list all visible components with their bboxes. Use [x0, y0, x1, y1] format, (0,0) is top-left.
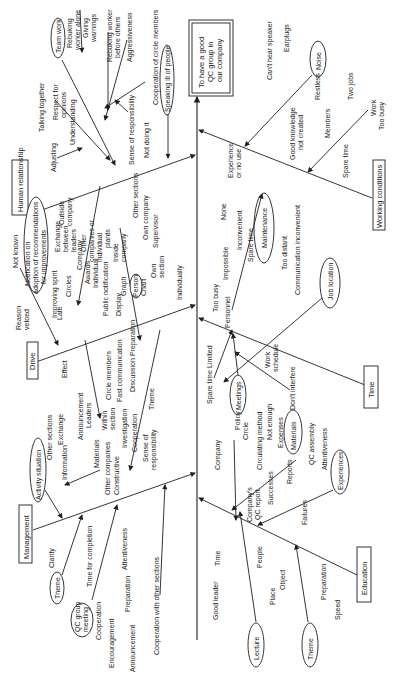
svg-text:Talking together: Talking together	[38, 82, 46, 132]
svg-text:QC group: QC group	[74, 602, 82, 632]
category-label: Education	[360, 562, 369, 595]
svg-text:Attentiveness: Attentiveness	[121, 527, 128, 570]
svg-text:company: company	[120, 233, 128, 262]
svg-text:Good leader: Good leader	[212, 581, 219, 620]
svg-text:Announcement: Announcement	[77, 393, 84, 440]
svg-text:Spare time: Spare time	[247, 228, 255, 262]
svg-text:Constructive: Constructive	[113, 456, 120, 495]
svg-text:Public notification: Public notification	[102, 261, 109, 316]
svg-text:Cooperation with other section: Cooperation with other sections	[153, 556, 161, 655]
svg-text:for improvements: for improvements	[40, 229, 48, 284]
svg-text:Members: Members	[324, 108, 331, 138]
svg-text:Good knowledge: Good knowledge	[289, 107, 297, 160]
svg-text:Notification on: Notification on	[24, 242, 31, 286]
svg-text:Circles: Circles	[65, 275, 72, 297]
svg-text:opinions: opinions	[60, 91, 68, 118]
svg-text:Circle: Circle	[242, 422, 249, 440]
svg-text:Place: Place	[269, 587, 276, 605]
svg-text:worker alone: worker alone	[74, 10, 81, 51]
svg-text:Within: Within	[101, 410, 108, 430]
svg-text:People: People	[256, 546, 264, 568]
svg-text:Object: Object	[279, 570, 287, 590]
svg-text:Inside: Inside	[112, 243, 119, 262]
team-work-label: Team work	[55, 19, 62, 53]
svg-text:Other companies: Other companies	[104, 441, 112, 495]
svg-text:Investigation: Investigation	[121, 409, 129, 448]
svg-text:Circulating method: Circulating method	[256, 412, 264, 470]
svg-text:Graph: Graph	[120, 276, 128, 296]
svg-text:Successes: Successes	[267, 471, 274, 505]
svg-text:Respect for: Respect for	[52, 84, 60, 120]
category-label: Human relationship	[16, 147, 25, 212]
svg-text:Experiences: Experiences	[337, 451, 345, 490]
svg-text:Not doing it: Not doing it	[143, 123, 151, 158]
effect-line-1: To have a good	[197, 37, 206, 88]
svg-text:Job location: Job location	[327, 263, 334, 300]
svg-text:None: None	[220, 203, 227, 220]
category-drive: Drive Not known Notification on adoption…	[12, 172, 195, 470]
svg-text:Other sections: Other sections	[46, 414, 53, 460]
fishbone-diagram: To have a good QC group in our company H…	[0, 0, 397, 677]
svg-text:Inconvenient: Inconvenient	[236, 210, 243, 250]
effect-box: To have a good QC group in our company	[189, 20, 233, 96]
svg-text:Company: Company	[214, 440, 222, 470]
svg-text:Theme: Theme	[307, 638, 314, 660]
svg-text:Leaders: Leaders	[85, 402, 92, 428]
svg-text:Spare time: Spare time	[342, 144, 350, 178]
svg-text:individual: individual	[96, 232, 103, 262]
svg-text:schedule: schedule	[272, 344, 279, 372]
svg-text:Limited: Limited	[206, 345, 213, 368]
svg-text:Other: Other	[80, 234, 87, 252]
svg-text:Too busy: Too busy	[378, 101, 386, 130]
category-education: Education Company Policy Circle Circulat…	[199, 404, 371, 667]
svg-text:Spare time: Spare time	[206, 370, 214, 404]
effect-line-3: our company	[215, 38, 224, 82]
svg-text:warnings: warnings	[90, 13, 98, 43]
category-human-relationship: Human relationship Team work Rebuking wo…	[12, 9, 195, 215]
svg-text:Own: Own	[150, 264, 157, 279]
svg-text:Effect: Effect	[61, 360, 68, 378]
svg-text:Company's: Company's	[246, 487, 254, 522]
svg-text:Exchange: Exchange	[57, 414, 65, 445]
svg-text:section: section	[158, 256, 165, 278]
svg-text:Own company: Own company	[142, 195, 150, 240]
svg-text:plants: plants	[104, 229, 112, 248]
svg-text:Circle members: Circle members	[105, 350, 112, 400]
svg-text:Speaking ill of people: Speaking ill of people	[164, 45, 172, 112]
category-label: Time	[367, 382, 376, 398]
svg-text:Other sections: Other sections	[132, 172, 139, 218]
category-label: Drive	[28, 352, 37, 370]
svg-text:Supervisor: Supervisor	[152, 214, 160, 248]
svg-text:Communication inconvenient: Communication inconvenient	[294, 205, 301, 295]
svg-text:Not enough: Not enough	[266, 404, 274, 440]
svg-text:Person: Person	[132, 275, 139, 297]
category-management: Management Activity situation Other sect…	[19, 414, 195, 672]
svg-text:Earplugs: Earplugs	[283, 24, 291, 52]
svg-text:Individual: Individual	[92, 258, 99, 288]
svg-text:Materials: Materials	[290, 421, 297, 450]
category-time: Time Limited Spare time Meetings Work sc…	[199, 318, 378, 415]
svg-text:Individually: Individually	[176, 265, 184, 300]
svg-text:Materials: Materials	[93, 439, 100, 468]
category-label: Working conditions	[375, 165, 384, 228]
svg-text:Rebuking worker: Rebuking worker	[106, 9, 114, 62]
svg-text:not created: not created	[297, 115, 304, 150]
svg-text:Time: Time	[214, 551, 221, 566]
svg-text:Preparation: Preparation	[124, 576, 132, 612]
svg-text:Chart: Chart	[140, 279, 147, 296]
svg-text:Don't interfere: Don't interfere	[289, 366, 296, 410]
svg-text:Failures: Failures	[301, 500, 308, 525]
svg-text:Time for completion: Time for completion	[86, 526, 94, 587]
svg-text:Information: Information	[61, 445, 68, 480]
svg-text:Impossible: Impossible	[222, 246, 230, 280]
svg-text:Reports: Reports	[286, 459, 294, 484]
svg-text:meeting: meeting	[82, 607, 90, 632]
category-label: Management	[22, 514, 31, 559]
svg-text:Preparation: Preparation	[129, 320, 137, 356]
svg-text:Rebuking: Rebuking	[66, 18, 74, 48]
svg-text:Attentiveness: Attentiveness	[321, 427, 328, 470]
svg-text:Late: Late	[56, 306, 63, 320]
svg-text:between: between	[62, 225, 69, 252]
svg-text:Maintenance: Maintenance	[261, 208, 268, 248]
svg-text:Awards: Awards	[84, 260, 91, 284]
